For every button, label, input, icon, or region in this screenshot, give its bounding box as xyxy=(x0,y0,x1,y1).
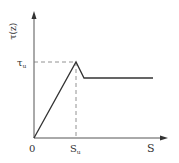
bond-slip-curve xyxy=(34,62,153,138)
y-axis-arrow-icon xyxy=(32,11,37,19)
diagram-canvas: τ(z) τu 0 Su S xyxy=(0,0,179,163)
x-axis-arrow-icon xyxy=(160,136,168,141)
tau-u-label: τu xyxy=(17,57,27,69)
bond-slip-diagram: τ(z) τu 0 Su S xyxy=(0,0,179,163)
su-label: Su xyxy=(70,143,81,155)
y-axis-label: τ(z) xyxy=(8,23,18,40)
origin-label: 0 xyxy=(29,143,35,154)
x-axis-label: S xyxy=(147,142,155,155)
